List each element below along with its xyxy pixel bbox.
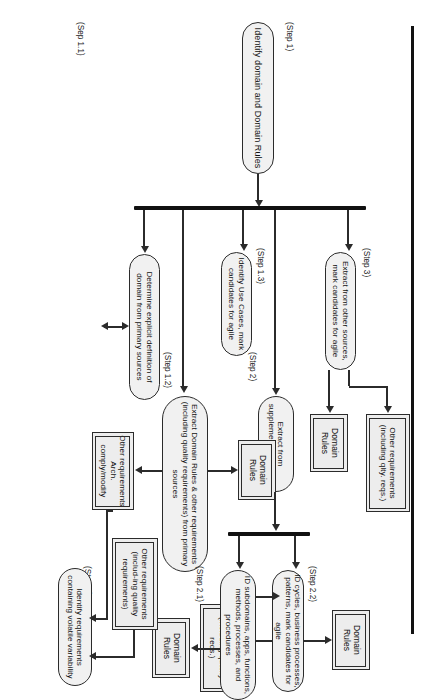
connector-step2-to-bar2 — [274, 492, 276, 526]
connector-root-to-bar — [257, 174, 259, 202]
label-step-1-3: (Step 1.3) — [256, 248, 265, 284]
label-step-1-2: (Step 1.2) — [163, 352, 172, 388]
label-step-3: (Step 3) — [362, 248, 371, 277]
fork-bar-step1 — [134, 206, 366, 210]
node-domain-rules-3[interactable]: Domain Rules — [238, 440, 276, 500]
node-domain-rules-2[interactable]: Domain Rules — [332, 610, 370, 670]
connector-extract-primary-down — [140, 470, 162, 472]
connector-bar-to-step12 — [182, 210, 184, 388]
connector-bar-to-step3 — [347, 210, 349, 246]
node-id-subdomains-apps-functions[interactable]: ID subdomains, apps, functions, methods,… — [220, 570, 256, 700]
connector-step21-up — [256, 596, 274, 598]
connector-bar2-to-step22 — [294, 536, 296, 564]
arrowhead-down-double — [101, 322, 108, 330]
arrowhead-otherreq-qlty — [384, 406, 392, 413]
connector-otherreq-to-step4 — [133, 630, 135, 656]
connector-bar-to-step2 — [274, 210, 276, 390]
connector-bar-to-step13 — [242, 210, 244, 246]
arrowhead-step11 — [141, 246, 149, 253]
arrowhead-step12 — [180, 386, 188, 393]
connector-bar-to-step11 — [143, 210, 145, 248]
arrowhead-bar2 — [272, 524, 280, 531]
arrowhead-domainrules-1 — [326, 406, 334, 413]
connector-step3-out-a — [348, 370, 350, 386]
arrowhead-step3 — [345, 244, 353, 251]
arrowhead-step4-b — [89, 614, 96, 622]
node-extract-from-other-sources[interactable]: Extract from other sources, mark candida… — [325, 252, 356, 370]
connector-step21-down — [196, 648, 220, 650]
node-identify-volatile-requirements[interactable]: Identify requirements containing volatil… — [58, 568, 92, 686]
arrowhead-otherreq-arch — [135, 466, 142, 474]
node-extract-domain-rules-primary[interactable]: Extract Domain Rules & other requirement… — [162, 396, 208, 572]
node-identify-domain-and-domain-rules[interactable]: Identify domain and Domain Rules — [242, 22, 274, 174]
node-id-cycles-business-processes[interactable]: ID cycles, business processes, patterns,… — [272, 570, 304, 692]
connector-otherreq-down — [92, 656, 135, 658]
label-step-2: (Step 2) — [248, 352, 257, 381]
connector-extract-primary-up — [208, 470, 232, 472]
arrowhead-step13 — [240, 244, 248, 251]
connector-arch-long — [106, 510, 108, 618]
arrowhead-step2 — [272, 388, 280, 395]
arrowhead-step21 — [236, 562, 244, 569]
fork-bar-step2 — [228, 532, 310, 536]
label-step-2-1: (Step 2.1) — [195, 566, 204, 602]
arrowhead-step4-a — [89, 652, 96, 660]
node-other-requirements-incl-quality[interactable]: Other requirements (includ-ing quality r… — [112, 538, 158, 630]
arrowhead-domainrules-2 — [325, 636, 332, 644]
node-identify-use-cases[interactable]: Identify Use Cases, mark candidates for … — [221, 252, 252, 356]
label-step-1-1: (Sep 1.1) — [76, 22, 85, 56]
connector-step22-up — [304, 640, 326, 642]
arrowhead-domainrules-4 — [191, 644, 198, 652]
node-other-requirements-qlty[interactable]: Other requirements (including qlty. reqs… — [366, 414, 410, 512]
node-other-requirements-arch[interactable]: Other requirements Arch. comply/modify — [92, 432, 134, 510]
arrowhead-step22 — [292, 562, 300, 569]
connector-bar2-to-step21 — [238, 536, 240, 564]
label-step-2-2: (Step 2.2) — [308, 566, 317, 602]
connector-step3-to-otherreq — [386, 386, 388, 408]
arrowhead-domainrules-3 — [231, 466, 238, 474]
arrowhead-otherreq-incl — [273, 592, 280, 600]
label-step-1: (Step 1) — [285, 22, 294, 51]
node-domain-rules-1[interactable]: Domain Rules — [310, 414, 348, 472]
node-determine-explicit-definition-of-domain[interactable]: Determine explicit definition of domain … — [129, 254, 160, 400]
connector-step3-to-domainrules — [328, 370, 330, 408]
connector-arch-stub — [107, 510, 113, 512]
arrowhead-up-double — [122, 322, 129, 330]
connector-step3-up — [349, 386, 388, 388]
